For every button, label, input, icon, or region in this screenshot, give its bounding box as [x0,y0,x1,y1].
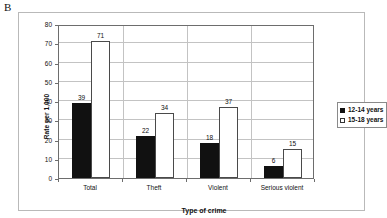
legend-item-0: 12-14 years [340,105,383,115]
x-tick-mark [58,179,59,182]
bar-value-label: 71 [85,32,116,40]
plot-area: 397122341837615 [58,25,314,179]
y-tick-label: 30 [34,117,52,124]
x-tick-label-violent: Violent [186,184,250,192]
bar-serious-violent-series-0 [264,166,283,178]
bar-serious-violent-series-1 [283,149,302,178]
x-axis-title: Type of crime [76,207,332,214]
category-separator [123,26,124,178]
bar-theft-series-1 [155,113,174,178]
y-tick-label: 60 [34,60,52,67]
chart-legend: 12-14 years15-18 years [337,102,387,128]
x-tick-label-serious-violent: Serious violent [250,184,314,192]
chart-frame: Rate per 1,000 01020304050607080 3971223… [18,12,365,211]
x-tick-mark [122,179,123,182]
legend-swatch-icon [340,118,345,123]
y-tick-label: 40 [34,98,52,105]
legend-label: 12-14 years [348,106,383,114]
x-tick-label-theft: Theft [122,184,186,192]
y-axis-title: Rate per 1,000 [40,76,54,156]
y-tick-label: 20 [34,137,52,144]
y-tick-label: 80 [34,21,52,28]
x-tick-mark [186,179,187,182]
category-separator [187,26,188,178]
legend-item-1: 15-18 years [340,115,383,125]
bar-violent-series-0 [200,143,219,178]
bar-total-series-1 [91,41,110,178]
bar-value-label: 34 [149,104,180,112]
y-tick-label: 70 [34,40,52,47]
y-tick-label: 10 [34,156,52,163]
legend-label: 15-18 years [348,116,383,124]
bar-theft-series-0 [136,136,155,178]
legend-swatch-icon [340,108,345,113]
bar-value-label: 15 [277,140,308,148]
category-separator [251,26,252,178]
y-tick-label: 0 [34,175,52,182]
panel-letter: B [4,1,11,13]
bar-value-label: 37 [213,98,244,106]
x-tick-label-total: Total [58,184,122,192]
bar-violent-series-1 [219,107,238,178]
x-tick-mark [250,179,251,182]
bar-total-series-0 [72,103,91,178]
y-tick-label: 50 [34,79,52,86]
x-tick-mark [314,179,315,182]
